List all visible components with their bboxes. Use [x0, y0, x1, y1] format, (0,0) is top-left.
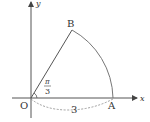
- sector-diagram: y x O A B π 3 3: [0, 0, 150, 122]
- angle-numerator: π: [44, 78, 50, 86]
- point-a-label: A: [107, 100, 116, 111]
- origin-label: O: [20, 100, 28, 111]
- y-axis-label: y: [35, 0, 41, 8]
- point-b-label: B: [67, 18, 74, 29]
- segment-ob: [31, 30, 72, 98]
- x-axis-label: x: [140, 94, 145, 103]
- radius-label: 3: [71, 104, 77, 115]
- arc-ba: [72, 30, 113, 98]
- angle-mark: [34, 93, 37, 98]
- angle-denominator: 3: [45, 87, 50, 96]
